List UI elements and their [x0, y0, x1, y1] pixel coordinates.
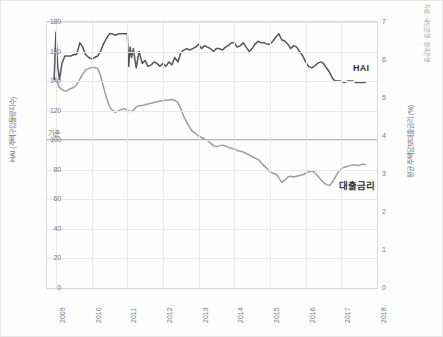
y-tick-right: 3	[382, 170, 402, 177]
gridline-horizontal	[47, 229, 377, 230]
plot-area	[46, 21, 378, 289]
gridline-vertical	[163, 22, 164, 288]
gridline-vertical	[92, 22, 93, 288]
y-tick-left: 0	[27, 284, 61, 291]
series-plot	[47, 22, 377, 288]
y-tick-left: 60	[27, 195, 61, 202]
y-axis-left-title: HAI (주택구입물량지수)	[7, 97, 17, 162]
gridline-vertical	[234, 22, 235, 288]
gridline-vertical	[270, 22, 271, 288]
gridline-vertical	[127, 22, 128, 288]
x-tick: 2013	[202, 293, 209, 323]
y-tick-left: 140	[27, 77, 61, 84]
y-axis-right-title: 평균 주택담보대출금리 (%)	[405, 105, 415, 178]
y-tick-right: 1	[382, 246, 402, 253]
gridline-horizontal	[47, 111, 377, 112]
x-tick: 2016	[309, 293, 316, 323]
x-tick: 2009	[59, 293, 66, 323]
y-tick-left: 40	[27, 225, 61, 232]
series-label-hai: HAI	[353, 63, 369, 73]
gridline-horizontal	[47, 199, 377, 200]
y-tick-right: 7	[382, 18, 402, 25]
y-tick-left: 20	[27, 254, 61, 261]
x-tick: 2010	[95, 293, 102, 323]
gridline-vertical	[199, 22, 200, 288]
y-tick-right: 6	[382, 56, 402, 63]
chart-page: HAI (주택구입물량지수) 평균 주택담보대출금리 (%) 자료 : 국민은행…	[0, 0, 443, 337]
gridline-horizontal	[47, 22, 377, 23]
y-tick-left: 80	[27, 166, 61, 173]
y-tick-left: 160	[27, 48, 61, 55]
y-tick-right: 0	[382, 284, 402, 291]
x-tick: 2018	[380, 293, 387, 323]
y-tick-right: 5	[382, 94, 402, 101]
y-tick-left: 180	[27, 18, 61, 25]
x-tick: 2014	[237, 293, 244, 323]
y-tick-right: 4	[382, 132, 402, 139]
x-tick: 2012	[166, 293, 173, 323]
x-tick: 2011	[130, 293, 137, 323]
gridline-horizontal	[47, 258, 377, 259]
y-tick-left: 100	[27, 136, 61, 143]
source-note: 자료 : 국민은행 · 한국은행	[423, 4, 431, 62]
gridline-horizontal	[47, 140, 377, 141]
y-tick-right: 2	[382, 208, 402, 215]
gridline-horizontal	[47, 170, 377, 171]
gridline-horizontal	[47, 52, 377, 53]
y-tick-left: 120	[27, 107, 61, 114]
series-label-rate: 대출금리	[339, 178, 375, 192]
gridline-vertical	[56, 22, 57, 288]
gridline-vertical	[341, 22, 342, 288]
gridline-vertical	[377, 22, 378, 288]
series-line-rate	[54, 68, 365, 186]
gridline-vertical	[306, 22, 307, 288]
x-tick: 2017	[344, 293, 351, 323]
gridline-horizontal	[47, 81, 377, 82]
x-tick: 2015	[273, 293, 280, 323]
